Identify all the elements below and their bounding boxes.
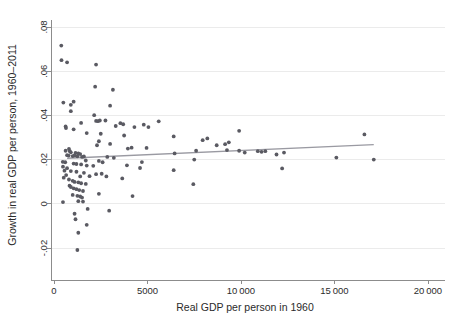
data-point [73, 212, 77, 216]
data-point [63, 169, 67, 173]
data-point [114, 124, 118, 128]
data-point [282, 151, 286, 155]
data-point [130, 146, 134, 150]
data-point [88, 174, 92, 178]
data-point [173, 152, 177, 156]
data-point [82, 171, 86, 175]
data-point [138, 166, 142, 170]
data-point [94, 172, 98, 176]
data-point [280, 167, 284, 171]
data-point [104, 119, 108, 123]
y-tick-label: .02 [38, 153, 49, 166]
data-point [69, 169, 73, 173]
x-tick-label: 5000 [137, 285, 158, 296]
data-point [223, 142, 227, 146]
y-tick-label: .08 [38, 20, 49, 33]
data-point [61, 200, 65, 204]
y-tick-label: -.02 [38, 240, 49, 256]
data-point [59, 44, 63, 48]
data-point [86, 207, 90, 211]
data-point [75, 248, 79, 252]
data-point [63, 160, 67, 164]
data-point [71, 193, 75, 197]
plot-background [0, 0, 457, 322]
data-point [79, 121, 83, 125]
data-point [85, 164, 89, 168]
data-point [101, 160, 105, 164]
data-point [72, 100, 76, 104]
data-point [76, 199, 80, 203]
data-point [75, 170, 79, 174]
data-point [61, 101, 65, 105]
data-point [201, 138, 205, 142]
data-point [111, 88, 115, 92]
data-point [275, 153, 279, 157]
data-point [69, 109, 73, 113]
y-tick-label: .06 [38, 65, 49, 78]
data-point [334, 156, 338, 160]
data-point [91, 164, 95, 168]
data-point [61, 165, 65, 169]
data-point [97, 192, 101, 196]
data-point [81, 189, 85, 193]
data-point [172, 168, 176, 172]
data-point [145, 146, 149, 150]
data-point [79, 181, 83, 185]
data-point [172, 134, 176, 138]
data-point [79, 163, 83, 167]
data-point [237, 129, 241, 133]
data-point [84, 159, 88, 163]
data-point [263, 149, 267, 153]
data-point [157, 119, 161, 123]
chart-container: 0500010 00015 00020 000 -.020.02.04.06.0… [0, 0, 457, 322]
data-point [122, 134, 126, 138]
data-point [72, 127, 76, 131]
data-point [194, 149, 198, 153]
x-tick-label: 0 [51, 285, 56, 296]
x-axis-label: Real GDP per person in 1960 [176, 301, 314, 313]
data-point [237, 149, 241, 153]
data-point [131, 194, 135, 198]
data-point [85, 131, 89, 135]
data-point [125, 163, 129, 167]
data-point [142, 123, 146, 127]
y-tick-label: .04 [38, 109, 49, 122]
data-point [64, 149, 68, 153]
data-point [191, 182, 195, 186]
data-point [84, 182, 88, 186]
data-point [67, 178, 71, 182]
data-point [93, 85, 97, 89]
data-point [69, 150, 73, 154]
data-point [112, 156, 116, 160]
data-point [99, 132, 103, 136]
data-point [227, 140, 231, 144]
data-point [62, 176, 66, 180]
data-point [75, 154, 79, 158]
data-point [67, 154, 71, 158]
data-point [97, 139, 101, 143]
data-point [100, 172, 104, 176]
y-axis-label: Growth in real GDP per person, 1960–2011 [6, 44, 18, 246]
data-point [126, 147, 130, 151]
data-point [256, 149, 260, 153]
x-tick-label: 20 000 [414, 285, 442, 296]
data-point [81, 200, 85, 204]
data-point [363, 133, 367, 137]
data-point [60, 58, 64, 62]
data-point [85, 223, 89, 227]
data-point [372, 158, 376, 162]
data-point [75, 162, 79, 166]
data-point [133, 125, 137, 129]
data-point [80, 196, 84, 200]
data-point [243, 151, 247, 155]
x-tick-label: 10 000 [227, 285, 255, 296]
data-point [92, 113, 96, 117]
data-point [225, 148, 229, 152]
data-point [95, 143, 99, 147]
data-point [97, 159, 101, 163]
data-point [73, 180, 77, 184]
data-point [76, 231, 80, 235]
data-point [104, 174, 108, 178]
data-point [98, 119, 102, 123]
data-point [74, 217, 78, 221]
